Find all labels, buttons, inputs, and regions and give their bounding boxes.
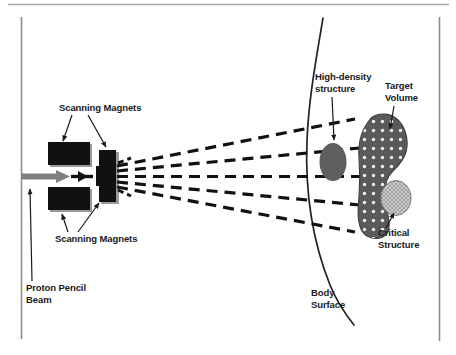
- label-high-density-line2: structure: [315, 83, 355, 94]
- label-body-surface-line2: Surface: [311, 299, 345, 310]
- magnet-lower: [48, 187, 90, 210]
- diagram-canvas: Scanning Magnets Scanning Magnets Proton…: [0, 0, 456, 355]
- label-target-volume-line2: Volume: [385, 92, 418, 103]
- critical-structure: [381, 181, 411, 216]
- label-high-density-line1: High-density: [315, 71, 372, 82]
- label-proton-pencil-beam-line2: Beam: [26, 294, 51, 305]
- magnet-upper: [48, 142, 90, 165]
- magnet-vertical-stub: [96, 166, 102, 186]
- label-target-volume-line1: Target: [385, 80, 414, 91]
- figure-root: Scanning Magnets Scanning Magnets Proton…: [0, 0, 456, 355]
- label-body-surface-line1: Body: [311, 287, 335, 298]
- label-proton-pencil-beam-line1: Proton Pencil: [26, 282, 86, 293]
- label-critical-structure-line2: Structure: [378, 239, 419, 250]
- label-scanning-magnets-bottom: Scanning Magnets: [55, 233, 137, 244]
- label-scanning-magnets-top: Scanning Magnets: [59, 102, 141, 113]
- high-density-structure: [320, 143, 347, 181]
- label-critical-structure-line1: Critical: [378, 227, 409, 238]
